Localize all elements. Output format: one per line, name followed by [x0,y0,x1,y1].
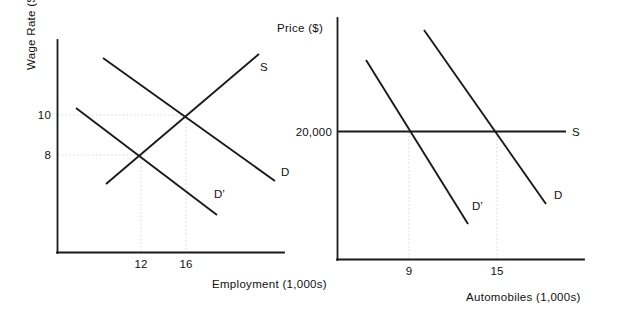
left-ytick-8: 8 [44,149,51,161]
left-ytick-10: 10 [38,109,51,121]
left-supply-label: S [260,61,268,73]
two-panel-supply-demand-figure: S D D’ 10 8 12 16 Wage Rate ($) Employme… [0,0,631,319]
guide-lines-left [58,115,186,253]
left-y-axis-title: Wage Rate ($) [25,0,37,70]
left-x-axis-title: Employment (1,000s) [212,278,327,290]
left-demand-shifted-label: D’ [214,188,225,200]
right-supply-label: S [572,126,580,138]
right-xtick-15: 15 [490,265,503,277]
right-demand-shifted-curve [366,60,468,224]
panel-automobile-market: S D D’ 20,000 9 15 Price ($) Automobiles… [277,18,584,303]
left-supply-curve [106,54,259,184]
left-xtick-12: 12 [134,258,147,270]
right-demand-curve [424,30,546,204]
left-demand-curve [103,58,275,181]
right-ytick-20000: 20,000 [296,126,332,138]
right-x-axis-title: Automobiles (1,000s) [466,291,581,303]
right-xtick-9: 9 [406,265,413,277]
left-xtick-16: 16 [179,258,192,270]
right-demand-label: D [554,189,562,201]
right-y-axis-title: Price ($) [277,22,323,34]
figure-canvas: S D D’ 10 8 12 16 Wage Rate ($) Employme… [0,0,631,319]
left-demand-label: D [281,166,289,178]
right-demand-shifted-label: D’ [472,200,483,212]
panel-labor-market: S D D’ 10 8 12 16 Wage Rate ($) Employme… [25,0,327,290]
